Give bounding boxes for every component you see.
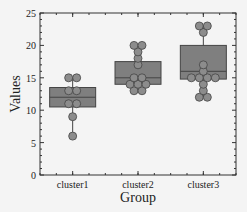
- data-point: [199, 61, 207, 69]
- data-point: [73, 87, 81, 95]
- y-tick-label: 10: [26, 105, 36, 116]
- data-point: [73, 100, 81, 108]
- data-point: [130, 41, 138, 49]
- data-point: [211, 74, 219, 82]
- data-point: [138, 74, 146, 82]
- x-tick-label: cluster2: [122, 179, 154, 190]
- x-axis-label: Group: [120, 190, 156, 205]
- data-point: [187, 74, 195, 82]
- data-point: [69, 132, 77, 140]
- data-point: [69, 113, 77, 121]
- y-tick-label: 20: [26, 40, 36, 51]
- y-tick-label: 0: [31, 170, 36, 181]
- data-point: [130, 74, 138, 82]
- data-point: [65, 100, 73, 108]
- box-plot-chart: 0510152025cluster1cluster2cluster3 Value…: [0, 0, 247, 212]
- y-axis-label: Values: [8, 75, 23, 112]
- plot-area: 0510152025cluster1cluster2cluster3: [26, 8, 236, 190]
- y-tick-label: 25: [26, 8, 36, 19]
- data-point: [73, 74, 81, 82]
- data-point: [203, 22, 211, 30]
- data-point: [65, 74, 73, 82]
- data-point: [138, 41, 146, 49]
- y-tick-label: 15: [26, 73, 36, 84]
- x-tick-label: cluster1: [57, 179, 89, 190]
- x-tick-label: cluster3: [188, 179, 220, 190]
- data-point: [65, 87, 73, 95]
- y-tick-label: 5: [31, 138, 36, 149]
- data-point: [195, 22, 203, 30]
